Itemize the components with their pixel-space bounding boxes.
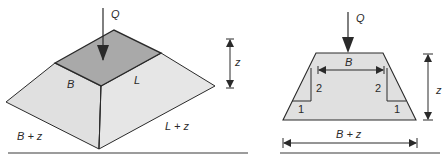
top-length-label: L: [134, 74, 140, 86]
depth-label-right: z: [435, 84, 442, 96]
base-width-dimension: B + z: [283, 128, 417, 148]
base-length-label: L + z: [165, 120, 189, 132]
svg-text:1: 1: [298, 103, 304, 115]
depth-label: z: [234, 56, 241, 68]
base-width-label: B + z: [17, 130, 43, 142]
top-width-label-right: B: [345, 56, 352, 68]
trapezoid-section: Q B 2 1 2 1 z B + z: [283, 12, 442, 148]
load-label-right: Q: [356, 12, 365, 24]
pyramid-frustum: Q B L B + z L + z z: [6, 8, 241, 149]
top-width-label: B: [67, 78, 74, 90]
stress-distribution-diagram: Q B L B + z L + z z Q B 2 1: [0, 0, 447, 163]
svg-text:2: 2: [375, 82, 381, 94]
arrowhead-icon: [342, 37, 354, 53]
depth-dimension-right: z: [423, 54, 442, 120]
depth-dimension: z: [226, 39, 241, 88]
svg-text:1: 1: [394, 103, 400, 115]
base-width-label-right: B + z: [336, 128, 362, 140]
load-label: Q: [111, 8, 120, 20]
svg-text:2: 2: [316, 82, 322, 94]
